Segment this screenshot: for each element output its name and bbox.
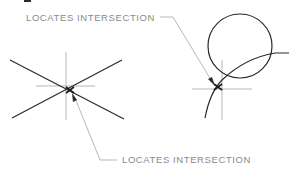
right-arc: [205, 53, 289, 118]
right-figure: [160, 14, 289, 120]
intersection-diagram: [0, 0, 289, 176]
right-leader-arrow-icon: [208, 77, 215, 86]
left-leader-line: [75, 98, 117, 160]
label-locates-intersection-bottom: LOCATES INTERSECTION: [122, 155, 251, 165]
right-leader-line: [160, 17, 211, 80]
partial-glyph: [24, 0, 31, 2]
right-circle: [208, 14, 272, 78]
left-figure: [10, 52, 124, 160]
label-locates-intersection-top: LOCATES INTERSECTION: [26, 13, 155, 23]
